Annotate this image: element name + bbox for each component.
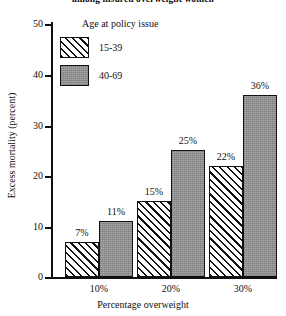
bar-30pct-40-69 (243, 95, 277, 277)
bar-label-30pct-15-39: 22% (202, 152, 250, 162)
bar-label-20pct-15-39: 15% (130, 187, 178, 197)
y-tick-label-10: 10 (13, 222, 43, 232)
x-tick-label-10pct: 10% (75, 283, 123, 294)
y-tick-10 (45, 227, 52, 229)
bar-20pct-15-39 (137, 201, 171, 277)
y-tick-label-50: 50 (13, 19, 43, 29)
x-axis-title: Percentage overweight (0, 299, 286, 310)
plot-area: 7% 11% 15% 25% 22% 36% (52, 24, 277, 277)
bar-chart: among insured overweight women 50 40 30 … (0, 0, 286, 316)
bar-label-30pct-40-69: 36% (236, 81, 284, 91)
y-tick-50 (45, 24, 52, 26)
y-tick-40 (45, 75, 52, 77)
y-tick-30 (45, 126, 52, 128)
bar-label-20pct-40-69: 25% (164, 136, 212, 146)
y-tick-label-30: 30 (13, 121, 43, 131)
x-axis-line (51, 277, 277, 279)
bar-30pct-15-39 (209, 166, 243, 277)
y-axis-title: Excess mortality (percent) (6, 76, 17, 216)
chart-title: among insured overweight women (0, 0, 286, 6)
bar-20pct-40-69 (171, 150, 205, 277)
bar-label-10pct-15-39: 7% (58, 228, 106, 238)
x-tick-label-30pct: 30% (219, 283, 267, 294)
bar-label-10pct-40-69: 11% (92, 207, 140, 217)
bar-10pct-15-39 (65, 242, 99, 277)
x-tick-label-20pct: 20% (147, 283, 195, 294)
y-tick-20 (45, 176, 52, 178)
y-tick-0 (45, 277, 52, 279)
y-tick-label-40: 40 (13, 70, 43, 80)
y-tick-label-0: 0 (13, 272, 43, 282)
y-tick-label-20: 20 (13, 171, 43, 181)
